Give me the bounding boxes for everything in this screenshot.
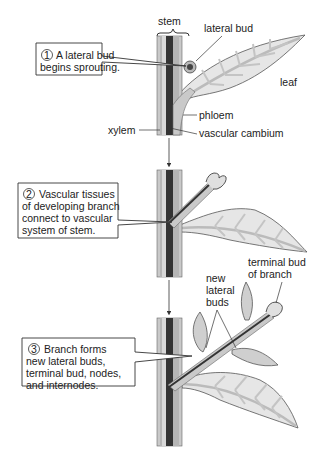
box-text-line: and internodes.: [26, 379, 98, 391]
xylem-label: xylem: [108, 124, 136, 136]
lateral-bud-label: lateral bud: [204, 22, 253, 34]
cambium-layer: [166, 36, 173, 135]
leaf-label: leaf: [280, 76, 297, 88]
step-number: 2: [26, 188, 32, 200]
phloem-label: phloem: [199, 109, 234, 121]
xylem-layer: [162, 36, 166, 135]
leader-line: [196, 36, 222, 61]
step-number: 1: [44, 49, 50, 61]
box-text-line: connect to vascular: [22, 212, 113, 224]
new-leaf: [232, 348, 278, 365]
box-text-line: A lateral bud: [56, 49, 115, 61]
leaf-shape: [182, 373, 298, 429]
stem-label: stem: [158, 15, 181, 27]
box-text-line: of developing branch: [22, 200, 120, 212]
terminal-bud-label: terminal bud: [248, 256, 306, 268]
stage-2: 2 Vascular tissues of developing branch …: [18, 170, 307, 313]
xylem-layer: [162, 318, 166, 446]
lateral-bud-core: [187, 64, 193, 70]
leader-line: [206, 310, 217, 348]
new-lateral-buds-label: new: [206, 272, 226, 284]
box-text-line: terminal bud, nodes,: [26, 367, 121, 379]
branch-development-diagram: stem lateral bud leaf phloem xylem vascu…: [0, 0, 325, 457]
new-leaf: [241, 282, 252, 320]
leader-line: [276, 282, 282, 303]
box-text-line: system of stem.: [22, 224, 96, 236]
step-number: 3: [31, 343, 37, 355]
vascular-cambium-label: vascular cambium: [199, 127, 284, 139]
terminal-bud-label: of branch: [248, 268, 292, 280]
stem-bracket: [157, 29, 189, 36]
new-lateral-buds-label: lateral: [206, 284, 235, 296]
stage-3: new lateral buds terminal bud of branch …: [22, 256, 306, 446]
xylem-layer: [162, 170, 166, 277]
box-text-line: new lateral buds,: [26, 355, 105, 367]
new-lateral-buds-label: buds: [206, 296, 229, 308]
new-leaf: [193, 312, 207, 352]
stage-1: stem lateral bud leaf phloem xylem vascu…: [36, 15, 305, 165]
box-text-line: Branch forms: [44, 343, 106, 355]
box-text-line: begins sprouting.: [40, 61, 120, 73]
box-text-line: Vascular tissues: [39, 188, 115, 200]
